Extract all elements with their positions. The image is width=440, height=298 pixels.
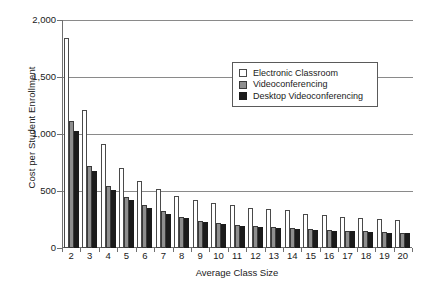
bar bbox=[74, 131, 79, 248]
x-axis-tick-label: 7 bbox=[154, 250, 172, 261]
x-axis-tick-labels: 234567891011121314151617181920 bbox=[62, 250, 412, 261]
bar-group bbox=[99, 20, 117, 248]
chart-figure: Cost per Student Enrollment 05001,0001,5… bbox=[0, 0, 440, 298]
bar-group bbox=[80, 20, 98, 248]
bar bbox=[276, 228, 281, 248]
bar-group bbox=[357, 20, 375, 248]
bar bbox=[184, 218, 189, 248]
x-axis-tick-label: 3 bbox=[80, 250, 98, 261]
bar-group bbox=[228, 20, 246, 248]
legend-item: Desktop Videoconferencing bbox=[239, 91, 372, 102]
y-axis-tick-label: 500 bbox=[14, 186, 56, 196]
x-axis-tick-label: 10 bbox=[209, 250, 227, 261]
bar bbox=[295, 229, 300, 248]
legend-swatch-icon bbox=[239, 92, 247, 100]
y-axis-tick-label: 2,000 bbox=[14, 15, 56, 25]
bar-group bbox=[173, 20, 191, 248]
bar bbox=[313, 230, 318, 248]
legend-swatch-icon bbox=[239, 69, 247, 77]
bar-group bbox=[320, 20, 338, 248]
legend-swatch-icon bbox=[239, 81, 247, 89]
bar bbox=[258, 227, 263, 248]
legend-label: Videoconferencing bbox=[253, 80, 327, 89]
bar-group bbox=[301, 20, 319, 248]
y-axis-tick-label: 1,000 bbox=[14, 129, 56, 139]
bar bbox=[111, 190, 116, 248]
bar bbox=[221, 224, 226, 248]
x-axis-tick-mark bbox=[412, 248, 413, 252]
bar bbox=[350, 231, 355, 248]
bar-group bbox=[375, 20, 393, 248]
x-axis-tick-label: 9 bbox=[191, 250, 209, 261]
legend-label: Electronic Classroom bbox=[253, 69, 338, 78]
bar-group bbox=[338, 20, 356, 248]
bar bbox=[368, 232, 373, 248]
x-axis-tick-label: 14 bbox=[283, 250, 301, 261]
bar bbox=[405, 233, 410, 248]
x-axis-tick-label: 11 bbox=[228, 250, 246, 261]
bar bbox=[92, 171, 97, 248]
x-axis-label: Average Class Size bbox=[62, 267, 412, 278]
x-axis-tick-label: 18 bbox=[357, 250, 375, 261]
x-axis-tick-label: 2 bbox=[62, 250, 80, 261]
bar-group bbox=[265, 20, 283, 248]
x-axis-tick-label: 16 bbox=[320, 250, 338, 261]
bar-group bbox=[136, 20, 154, 248]
x-axis-tick-label: 19 bbox=[375, 250, 393, 261]
bar bbox=[147, 208, 152, 248]
legend: Electronic ClassroomVideoconferencingDes… bbox=[232, 62, 378, 107]
x-axis-tick-label: 20 bbox=[394, 250, 412, 261]
bar bbox=[203, 222, 208, 248]
legend-label: Desktop Videoconferencing bbox=[253, 92, 363, 101]
x-axis-tick-label: 4 bbox=[99, 250, 117, 261]
bar-group bbox=[246, 20, 264, 248]
bar-group bbox=[62, 20, 80, 248]
x-axis-tick-label: 8 bbox=[173, 250, 191, 261]
bar bbox=[332, 231, 337, 248]
legend-item: Videoconferencing bbox=[239, 79, 372, 90]
y-axis-tick-label: 0 bbox=[14, 243, 56, 253]
legend-item: Electronic Classroom bbox=[239, 68, 372, 79]
bar-group bbox=[191, 20, 209, 248]
bar bbox=[166, 214, 171, 248]
x-axis-tick-label: 15 bbox=[301, 250, 319, 261]
bar-group bbox=[209, 20, 227, 248]
bar bbox=[129, 200, 134, 248]
x-axis-tick-label: 17 bbox=[338, 250, 356, 261]
bar-group bbox=[394, 20, 412, 248]
bar-group bbox=[117, 20, 135, 248]
bar bbox=[240, 226, 245, 248]
x-axis-tick-label: 13 bbox=[265, 250, 283, 261]
x-axis-tick-label: 6 bbox=[136, 250, 154, 261]
bar bbox=[387, 233, 392, 248]
bar-groups bbox=[62, 20, 412, 248]
bar-group bbox=[283, 20, 301, 248]
x-axis-tick-label: 5 bbox=[117, 250, 135, 261]
x-axis-tick-label: 12 bbox=[246, 250, 264, 261]
bar-group bbox=[154, 20, 172, 248]
y-axis-tick-label: 1,500 bbox=[14, 72, 56, 82]
